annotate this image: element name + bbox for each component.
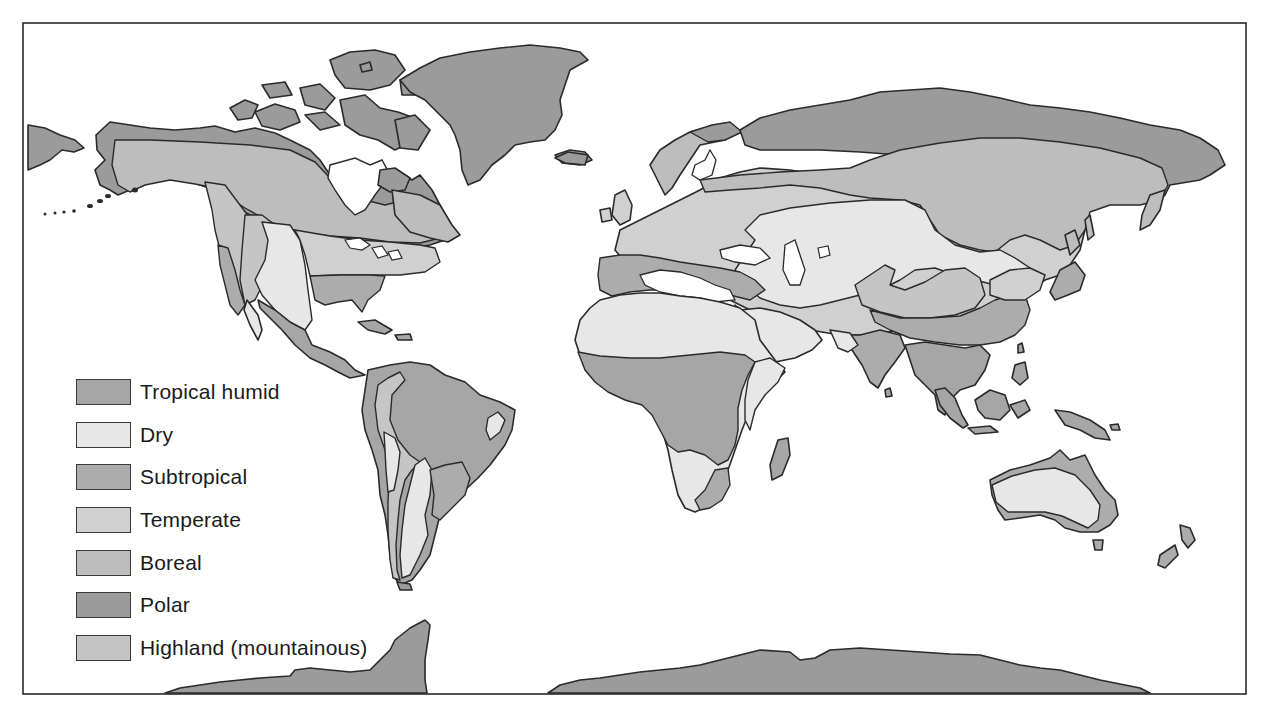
legend-label: Tropical humid — [140, 380, 280, 404]
swatch-boreal — [76, 550, 131, 576]
legend-label: Temperate — [140, 508, 241, 532]
legend-label: Boreal — [140, 551, 202, 575]
legend-item-temperate: Temperate — [76, 500, 367, 540]
legend-item-boreal: Boreal — [76, 543, 367, 583]
swatch-tropical-humid — [76, 379, 131, 405]
map-legend: Tropical humid Dry Subtropical Temperate… — [76, 372, 367, 671]
legend-item-dry: Dry — [76, 415, 367, 455]
swatch-polar — [76, 592, 131, 618]
swatch-highland — [76, 635, 131, 661]
legend-item-tropical-humid: Tropical humid — [76, 372, 367, 412]
legend-item-highland: Highland (mountainous) — [76, 628, 367, 668]
legend-item-polar: Polar — [76, 585, 367, 625]
swatch-dry — [76, 422, 131, 448]
legend-label: Dry — [140, 423, 173, 447]
legend-label: Highland (mountainous) — [140, 636, 367, 660]
swatch-temperate — [76, 507, 131, 533]
swatch-subtropical — [76, 464, 131, 490]
legend-item-subtropical: Subtropical — [76, 457, 367, 497]
legend-label: Subtropical — [140, 465, 247, 489]
legend-label: Polar — [140, 593, 190, 617]
